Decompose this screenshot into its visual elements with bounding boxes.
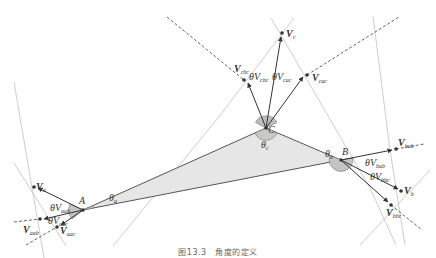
dvcac-label: θVcac (272, 71, 292, 83)
point-vaab (38, 217, 42, 221)
vcac-label: Vcac (312, 72, 327, 84)
vector-arrows (38, 37, 398, 225)
vertex-c-label: C (268, 124, 275, 135)
va-label: Va (36, 181, 46, 193)
construction-lines (14, 16, 430, 258)
dvcbc-label: θVcbc (249, 71, 269, 83)
point-a (81, 208, 85, 212)
dvbab-label: θVbab (365, 157, 385, 169)
point-vc (280, 31, 284, 35)
vertex-b-label: B (342, 146, 348, 157)
dvaac-label: θVaac (48, 215, 68, 227)
theta-b-label: θb (325, 148, 333, 160)
figure-caption: 图13.3 角度的定义 (0, 246, 436, 257)
vb-label: Vb (404, 185, 414, 197)
theta-a-label: θa (109, 192, 117, 204)
triangle-abc (83, 128, 341, 210)
vector-points (32, 31, 403, 229)
angle-definition-diagram: A B C θa θb θc Vc Vcac Vcbc Va Vaab Vaac… (0, 0, 436, 258)
dvaab-label: θVaab (50, 202, 70, 214)
point-vcac (305, 73, 309, 77)
dvbbc-label: θVbbc (370, 171, 390, 183)
vaab-label: Vaab (23, 224, 39, 236)
vcbc-label: Vcbc (234, 63, 249, 75)
point-b (339, 158, 343, 162)
vc-label: Vc (286, 28, 296, 40)
vbab-label: Vbab (398, 137, 414, 149)
vertex-a-label: A (78, 195, 86, 206)
point-vb (399, 189, 403, 193)
point-vcbc (242, 78, 246, 82)
